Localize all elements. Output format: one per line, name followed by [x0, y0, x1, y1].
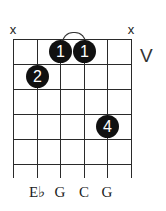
fret-line-3	[13, 114, 132, 115]
chord-diagram: x x V 1 1 2 4 E♭ G C G	[0, 0, 166, 211]
mute-marker-string-6: x	[125, 23, 137, 36]
finger-dot-string-3-fret-1: 1	[49, 40, 72, 63]
fret-line-5	[13, 164, 132, 165]
fret-line-1	[13, 64, 132, 65]
string-line-6	[131, 39, 132, 178]
finger-dot-string-5-fret-4: 4	[96, 115, 119, 138]
string-line-2	[37, 39, 38, 178]
note-label-string-3: G	[50, 185, 70, 200]
fret-line-2	[13, 89, 132, 90]
finger-dot-string-4-fret-1: 1	[73, 40, 96, 63]
fret-line-0	[13, 39, 132, 40]
note-label-string-4: C	[74, 185, 94, 200]
fret-position-marker: V	[140, 46, 153, 65]
string-line-5	[107, 39, 108, 178]
note-label-string-2: E♭	[27, 185, 47, 200]
note-label-string-5: G	[97, 185, 117, 200]
fret-line-4	[13, 139, 132, 140]
finger-dot-string-2-fret-2: 2	[26, 65, 49, 88]
mute-marker-string-1: x	[7, 23, 19, 36]
string-line-1	[13, 39, 14, 178]
